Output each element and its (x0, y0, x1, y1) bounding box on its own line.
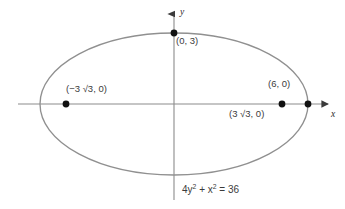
ellipse-figure: (−3 √3, 0) (0, 3) (6, 0) (3 √3, 0) y x 4… (0, 0, 345, 209)
plot-canvas (0, 0, 345, 209)
point-focus-left (63, 101, 70, 108)
equation-equals: = (219, 184, 225, 195)
y-axis-label: y (180, 8, 184, 18)
label-focus-right: (3 √3, 0) (229, 109, 264, 119)
equation-rhs: 36 (228, 184, 239, 195)
point-focus-right (279, 101, 286, 108)
equation-exp-x: 2 (213, 183, 217, 190)
equation-annotation: 4y2 + x2 = 36 (182, 185, 239, 195)
x-axis-label: x (331, 110, 335, 120)
point-vertex-right (305, 101, 312, 108)
equation-plus: + (199, 184, 205, 195)
equation-exp-y: 2 (193, 183, 197, 190)
label-covertex-top: (0, 3) (176, 36, 198, 46)
label-focus-left: (−3 √3, 0) (66, 84, 107, 94)
label-vertex-right: (6, 0) (268, 79, 290, 89)
